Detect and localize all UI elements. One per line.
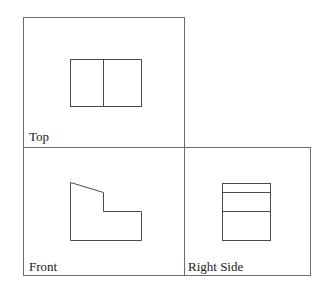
front-view-label: Front <box>29 259 58 274</box>
front-view: Front <box>24 148 185 276</box>
right-side-view: Right Side <box>185 148 311 276</box>
top-view-label: Top <box>29 129 49 144</box>
top-view: Top <box>24 18 185 148</box>
right-side-view-label: Right Side <box>188 259 243 274</box>
orthographic-views-diagram: Top Front Right Side <box>0 0 327 290</box>
front-view-outline <box>71 183 142 241</box>
top-view-outline <box>71 60 142 107</box>
